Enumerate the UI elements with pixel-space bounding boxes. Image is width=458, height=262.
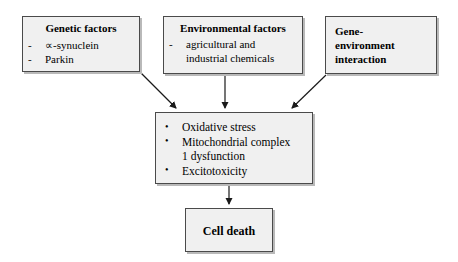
- list-item: - agricultural and: [164, 38, 302, 52]
- list-item-label: ∝-synuclein: [45, 39, 99, 51]
- arrow-genetic-to-mechanisms: [141, 73, 176, 108]
- box-mechanisms: • Oxidative stress • Mitochondrial compl…: [155, 112, 313, 184]
- bullet-marker-icon: •: [165, 120, 169, 135]
- genetic-factors-list: - ∝-synuclein - Parkin: [23, 39, 139, 66]
- list-item-label: 1 dysfunction: [182, 150, 245, 162]
- box-environmental-factors: Environmental factors - agricultural and…: [163, 16, 303, 74]
- gene-environment-title-line-2: environment: [335, 38, 436, 52]
- dash-marker-icon: -: [28, 53, 32, 67]
- mechanisms-list: • Oxidative stress • Mitochondrial compl…: [156, 120, 312, 178]
- list-item-continuation: 1 dysfunction: [156, 149, 312, 164]
- dash-marker-icon: -: [169, 38, 173, 52]
- diagram-canvas: Genetic factors - ∝-synuclein - Parkin E…: [0, 0, 458, 262]
- box-cell-death: Cell death: [185, 208, 273, 252]
- list-item: - ∝-synuclein: [23, 39, 139, 53]
- box-gene-environment-interaction: Gene- environment interaction: [325, 16, 437, 74]
- gene-environment-title-line-1: Gene-: [335, 24, 436, 38]
- list-item-label: industrial chemicals: [186, 52, 274, 64]
- list-item-label: Oxidative stress: [182, 121, 256, 133]
- gene-environment-title: Gene- environment interaction: [335, 24, 436, 66]
- environmental-factors-list: - agricultural and industrial chemicals: [164, 38, 302, 65]
- bullet-marker-icon: •: [165, 134, 169, 149]
- list-item: • Mitochondrial complex: [156, 135, 312, 150]
- box-genetic-factors: Genetic factors - ∝-synuclein - Parkin: [22, 16, 140, 72]
- arrow-geneenvironment-to-mechanisms: [292, 75, 326, 108]
- list-item-label: Parkin: [45, 53, 74, 65]
- list-item-label: Mitochondrial complex: [182, 136, 290, 148]
- cell-death-label: Cell death: [186, 224, 272, 239]
- dash-marker-icon: -: [28, 39, 32, 53]
- environmental-factors-title: Environmental factors: [164, 22, 302, 35]
- list-item-label: agricultural and: [186, 38, 255, 50]
- bullet-marker-icon: •: [165, 163, 169, 178]
- list-item-label: Excitotoxicity: [182, 165, 247, 177]
- list-item: - Parkin: [23, 53, 139, 67]
- list-item-continuation: industrial chemicals: [164, 52, 302, 66]
- gene-environment-title-line-3: interaction: [335, 52, 436, 66]
- list-item: • Excitotoxicity: [156, 164, 312, 179]
- list-item: • Oxidative stress: [156, 120, 312, 135]
- genetic-factors-title: Genetic factors: [23, 22, 139, 35]
